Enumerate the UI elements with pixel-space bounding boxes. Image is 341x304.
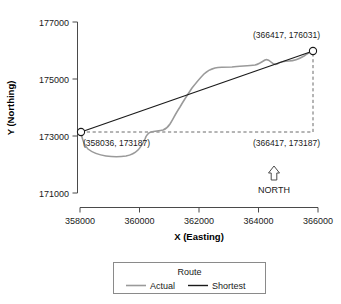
y-axis: 177000 175000 173000 171000 Y (Northing)	[5, 18, 78, 199]
y-axis-title: Y (Northing)	[5, 81, 16, 136]
corner-point-label: (366417, 173187)	[253, 138, 320, 148]
north-arrow-icon	[269, 166, 280, 180]
x-axis: 358000 360000 362000 364000 366000 X (Ea…	[65, 208, 333, 243]
y-tick-label-173000: 173000	[39, 132, 69, 142]
north-indicator: NORTH	[258, 166, 290, 195]
legend: Route Actual Shortest	[114, 263, 266, 294]
north-label: NORTH	[258, 185, 290, 195]
legend-label-actual: Actual	[150, 281, 175, 291]
legend-title: Route	[177, 267, 201, 277]
x-tick-label-362000: 362000	[184, 216, 214, 226]
y-tick-label-175000: 175000	[39, 75, 69, 85]
end-endpoint-marker	[309, 47, 316, 54]
chart-figure: 177000 175000 173000 171000 Y (Northing)…	[0, 0, 341, 304]
series-line-shortest	[81, 51, 313, 132]
end-point-label: (366417, 176031)	[253, 30, 320, 40]
x-axis-title: X (Easting)	[174, 231, 224, 242]
start-point-label: (358036, 173187)	[83, 138, 150, 148]
x-tick-label-358000: 358000	[65, 216, 95, 226]
x-tick-label-364000: 364000	[243, 216, 273, 226]
y-tick-label-177000: 177000	[39, 18, 69, 28]
x-tick-label-366000: 366000	[303, 216, 333, 226]
legend-label-shortest: Shortest	[212, 281, 246, 291]
start-endpoint-marker	[77, 128, 84, 135]
y-tick-label-171000: 171000	[39, 189, 69, 199]
x-tick-label-360000: 360000	[124, 216, 154, 226]
route-comparison-chart: 177000 175000 173000 171000 Y (Northing)…	[0, 0, 341, 304]
